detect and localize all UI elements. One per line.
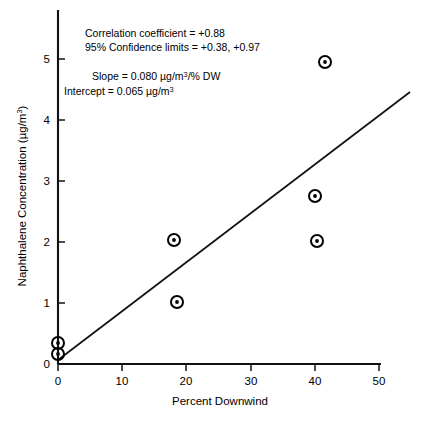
y-axis-title-main: Naphthalene Concentration (µg/m xyxy=(16,114,28,287)
annotation-slope-post: /% DW xyxy=(188,70,221,82)
annotation-correlation: Correlation coefficient = +0.88 xyxy=(85,27,225,39)
x-tick-label: 0 xyxy=(55,375,61,387)
annotation-block: Correlation coefficient = +0.88 95% Conf… xyxy=(64,27,260,97)
svg-text:Naphthalene Concentration (µg/: Naphthalene Concentration (µg/m3) xyxy=(15,105,28,286)
x-tick-label: 20 xyxy=(180,375,193,387)
y-axis-title: Naphthalene Concentration (µg/m3) xyxy=(15,105,28,286)
regression-fit-line xyxy=(58,92,410,360)
annotation-intercept: Intercept = 0.065 µg/m3 xyxy=(64,85,174,97)
x-axis-title: Percent Downwind xyxy=(172,395,268,407)
data-point xyxy=(319,56,331,68)
y-tick-label: 5 xyxy=(44,53,50,65)
x-tick-label: 50 xyxy=(373,375,386,387)
annotation-intercept-pre: Intercept = 0.065 µg/m xyxy=(64,85,170,97)
annotation-slope-pre: Slope = 0.080 µg/m xyxy=(92,70,184,82)
chart-figure: 0 1 2 3 4 5 0 10 20 30 40 50 Percent Dow… xyxy=(0,0,424,425)
x-tick-label: 40 xyxy=(309,375,322,387)
annotation-confidence: 95% Confidence limits = +0.38, +0.97 xyxy=(85,41,260,53)
x-tick-label: 10 xyxy=(116,375,129,387)
scatter-plot-canvas: 0 1 2 3 4 5 0 10 20 30 40 50 Percent Dow… xyxy=(0,0,424,425)
y-axis-title-tail: ) xyxy=(16,105,28,109)
x-tick-label: 30 xyxy=(245,375,258,387)
data-point xyxy=(168,234,180,246)
x-axis-tick-labels: 0 10 20 30 40 50 xyxy=(55,375,386,387)
annotation-intercept-exponent: 3 xyxy=(170,85,174,94)
y-tick-label: 3 xyxy=(44,175,50,187)
data-point xyxy=(311,235,323,247)
y-tick-label: 4 xyxy=(44,114,51,126)
y-tick-label: 2 xyxy=(44,236,50,248)
data-point xyxy=(171,296,183,308)
data-point xyxy=(309,190,321,202)
annotation-slope: Slope = 0.080 µg/m3/% DW xyxy=(92,70,220,82)
y-axis-tick-labels: 0 1 2 3 4 5 xyxy=(44,53,51,370)
data-point-group xyxy=(52,56,331,360)
y-tick-label: 0 xyxy=(44,358,50,370)
y-tick-label: 1 xyxy=(44,297,50,309)
